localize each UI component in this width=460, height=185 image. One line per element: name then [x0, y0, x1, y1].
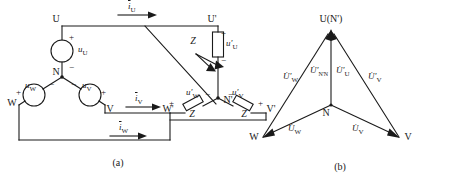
voltage-label-v-load: u'V — [232, 88, 244, 100]
current-label-iw: iW — [119, 123, 128, 135]
phasor-label-uprime-v: U̇'V — [368, 72, 382, 84]
arrow-iu-head — [148, 12, 157, 19]
polarity-plus-zw: + — [169, 98, 174, 108]
phasor-w-label: W — [249, 131, 259, 142]
terminal-label-n: N — [52, 66, 59, 77]
terminal-label-uprime: U' — [207, 13, 216, 24]
phasor-label-uprime-u: U̇'U — [336, 66, 350, 78]
caption-a: (a) — [112, 157, 123, 169]
terminal-label-vprime: V' — [266, 103, 275, 114]
polarity-plus-w-source: + — [16, 87, 21, 97]
wire-nprime-to-zw — [203, 98, 218, 106]
current-label-iv: iV — [135, 94, 143, 106]
polarity-plus-u-source: + — [69, 32, 74, 42]
phasor-u-v-head — [387, 129, 400, 139]
phasor-uprime-v-head — [331, 30, 337, 41]
voltage-label-u-source: uU — [78, 45, 88, 57]
phasor-label-u-v: U̇V — [352, 124, 364, 136]
caption-b: (b) — [334, 161, 346, 173]
wire-v-source-out — [99, 101, 105, 105]
terminal-label-w: W — [7, 97, 17, 108]
terminal-label-u: U — [52, 13, 60, 24]
phasor-uprime-w-head — [325, 30, 331, 41]
figure-svg: U U' N W V W' V' N' + − − + − + + − − + … — [0, 0, 460, 185]
figure-container: U U' N W V W' V' N' + − − + − + + − − + … — [0, 0, 460, 185]
voltage-label-w-source: uW — [25, 81, 36, 93]
polarity-minus-w-source: − — [49, 79, 54, 89]
polarity-plus-zv: + — [258, 98, 263, 108]
phasor-label-u-w: U̇W — [288, 124, 301, 136]
source-u-symbol — [51, 40, 73, 62]
phasor-node-n — [329, 103, 332, 106]
voltage-label-u-load: u'U — [226, 39, 238, 51]
phasor-apex-label: U(N') — [320, 13, 343, 25]
phasor-label-uprime-nn: U̇'N'N — [310, 66, 328, 77]
arrow-iw-head — [138, 133, 147, 140]
terminal-label-v: V — [106, 103, 114, 114]
impedance-label-z-v: Z — [241, 108, 247, 119]
phasor-neutral-label: N — [322, 107, 329, 118]
polarity-minus-zw: − — [205, 89, 210, 99]
impedance-label-z-u: Z — [190, 35, 196, 46]
polarity-minus-zu: − — [221, 55, 226, 65]
voltage-label-w-load: u'W — [186, 88, 199, 100]
voltage-label-v-source: uV — [82, 81, 92, 93]
impedance-label-z-w: Z — [189, 108, 195, 119]
wire-w-source-out — [19, 101, 25, 105]
polarity-minus-v-source: − — [71, 79, 76, 89]
arrow-iv-head — [152, 104, 161, 111]
current-label-iu: iU — [128, 2, 136, 14]
phasor-v-label: V — [404, 131, 412, 142]
polarity-plus-zu: + — [221, 28, 226, 38]
polarity-minus-u-source: − — [69, 62, 74, 72]
polarity-plus-v-source: + — [101, 87, 106, 97]
phasor-u-w-head — [262, 129, 275, 139]
phasor-label-uprime-w: U̇'W — [283, 72, 298, 84]
